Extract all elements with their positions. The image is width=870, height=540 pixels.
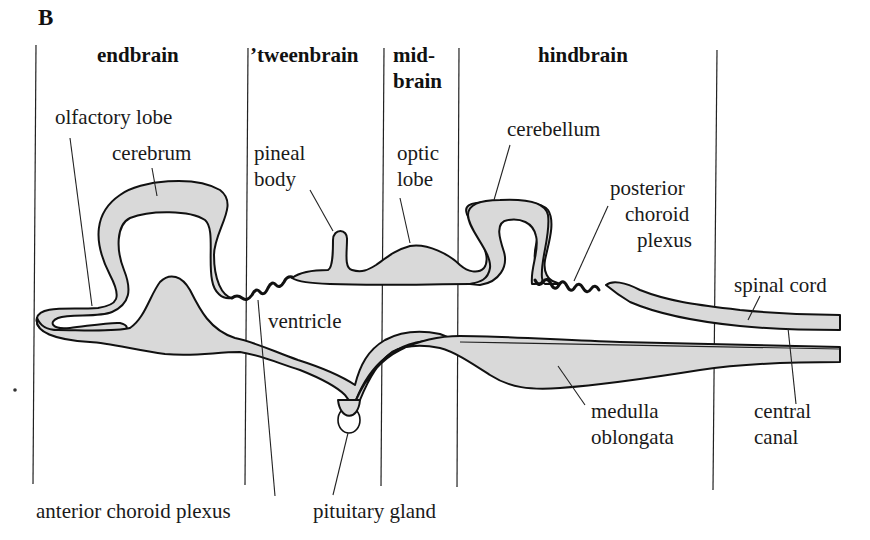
- label-cerebellum: cerebellum: [507, 117, 600, 141]
- leader-pituitary-gland: [333, 433, 348, 495]
- print-speck: [13, 388, 17, 392]
- posterior-choroid-plexus-wave: [535, 279, 599, 291]
- header-midbrain-line1: mid-: [393, 43, 435, 67]
- anterior-choroid-plexus-wave: [232, 277, 292, 300]
- ventral-wall: [37, 276, 840, 433]
- label-medulla-line1: medulla: [591, 399, 659, 423]
- leader-posterior-choroid-plexus: [574, 206, 608, 281]
- divider-line: [33, 45, 36, 484]
- divider-line: [713, 50, 717, 490]
- leader-pineal-body: [310, 190, 333, 231]
- label-posterior-line2: choroid: [625, 202, 690, 226]
- medulla-shape: [356, 336, 840, 400]
- leader-optic-lobe: [400, 198, 410, 243]
- label-posterior-line3: plexus: [637, 228, 692, 252]
- label-pituitary-gland: pituitary gland: [313, 499, 437, 523]
- header-endbrain: endbrain: [97, 43, 179, 67]
- divider-line: [245, 48, 248, 485]
- label-pineal-line2: body: [254, 167, 297, 191]
- header-midbrain-line2: brain: [393, 69, 442, 93]
- panel-label: B: [38, 5, 53, 30]
- label-posterior-line1: posterior: [610, 176, 685, 200]
- label-optic-line2: lobe: [397, 167, 433, 191]
- brain-regions-diagram: B endbrain ’tweenbrain mid- brain hindbr…: [0, 0, 870, 540]
- leader-cerebellum: [494, 145, 510, 200]
- label-cerebrum: cerebrum: [112, 141, 191, 165]
- label-pineal-line1: pineal: [254, 141, 305, 165]
- region-headers: endbrain ’tweenbrain mid- brain hindbrai…: [97, 43, 628, 93]
- label-olfactory-lobe: olfactory lobe: [55, 105, 172, 129]
- label-central-canal-line2: canal: [754, 425, 798, 449]
- header-tweenbrain: ’tweenbrain: [250, 43, 359, 67]
- leader-olfactory-lobe: [70, 138, 92, 306]
- label-central-canal-line1: central: [754, 399, 811, 423]
- label-anterior-choroid-plexus: anterior choroid plexus: [36, 499, 231, 523]
- label-ventricle: ventricle: [268, 309, 341, 333]
- header-hindbrain: hindbrain: [538, 43, 628, 67]
- leader-central-canal: [788, 328, 796, 404]
- endbrain-floor-shape: [37, 276, 460, 402]
- label-spinal-cord: spinal cord: [734, 273, 827, 297]
- label-optic-line1: optic: [397, 141, 439, 165]
- label-medulla-line2: oblongata: [591, 425, 674, 449]
